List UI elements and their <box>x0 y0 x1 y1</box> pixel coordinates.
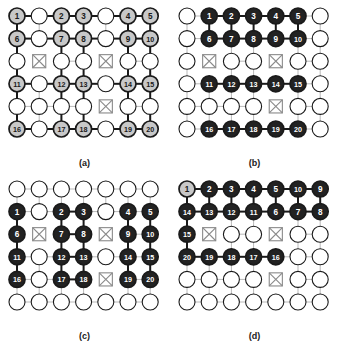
node-labeled[interactable]: 9 <box>312 181 328 197</box>
node-labeled[interactable]: 16 <box>201 121 217 137</box>
node-labeled[interactable]: 8 <box>76 31 92 47</box>
node-labeled[interactable]: 17 <box>223 121 239 137</box>
node-labeled[interactable]: 15 <box>290 76 306 92</box>
node-labeled[interactable]: 13 <box>76 249 92 265</box>
node-empty <box>31 181 47 197</box>
node-labeled[interactable]: 8 <box>312 204 328 220</box>
node-labeled[interactable]: 4 <box>268 8 284 24</box>
node-labeled[interactable]: 13 <box>201 204 217 220</box>
node-label: 16 <box>205 125 213 134</box>
node-labeled[interactable]: 3 <box>246 8 262 24</box>
node-labeled[interactable]: 17 <box>53 271 69 287</box>
node-labeled[interactable]: 4 <box>246 181 262 197</box>
node-labeled[interactable]: 5 <box>142 204 158 220</box>
node-labeled[interactable]: 19 <box>268 121 284 137</box>
node-labeled[interactable]: 10 <box>290 181 306 197</box>
node-labeled[interactable]: 16 <box>9 271 25 287</box>
node-labeled[interactable]: 12 <box>53 76 69 92</box>
node-labeled[interactable]: 15 <box>142 76 158 92</box>
node-labeled[interactable]: 20 <box>142 271 158 287</box>
node-labeled[interactable]: 2 <box>53 8 69 24</box>
node-labeled[interactable]: 11 <box>9 249 25 265</box>
node-label: 15 <box>294 80 302 89</box>
node-labeled[interactable]: 13 <box>76 76 92 92</box>
node-labeled[interactable]: 15 <box>179 226 195 242</box>
node-label: 10 <box>146 35 154 44</box>
node-empty <box>179 76 195 92</box>
node-labeled[interactable]: 1 <box>9 8 25 24</box>
node-labeled[interactable]: 1 <box>9 204 25 220</box>
node-labeled[interactable]: 9 <box>120 31 136 47</box>
node-labeled[interactable]: 7 <box>53 226 69 242</box>
node-labeled[interactable]: 5 <box>268 181 284 197</box>
node-labeled[interactable]: 2 <box>201 181 217 197</box>
node-labeled[interactable]: 11 <box>201 76 217 92</box>
node-labeled[interactable]: 13 <box>246 76 262 92</box>
node-label: 17 <box>227 125 235 134</box>
node-labeled[interactable]: 8 <box>246 31 262 47</box>
node-labeled[interactable]: 7 <box>53 31 69 47</box>
node-labeled[interactable]: 2 <box>223 8 239 24</box>
node-labeled[interactable]: 3 <box>223 181 239 197</box>
node-empty <box>312 31 328 47</box>
node-labeled[interactable]: 11 <box>9 76 25 92</box>
node-labeled[interactable]: 19 <box>120 271 136 287</box>
node-labeled[interactable]: 16 <box>268 249 284 265</box>
node-labeled[interactable]: 14 <box>268 76 284 92</box>
node-empty <box>290 98 306 114</box>
node-labeled[interactable]: 14 <box>120 249 136 265</box>
node-labeled[interactable]: 14 <box>120 76 136 92</box>
node-labeled[interactable]: 7 <box>223 31 239 47</box>
node-labeled[interactable]: 16 <box>9 121 25 137</box>
node-labeled[interactable]: 12 <box>223 76 239 92</box>
node-labeled[interactable]: 17 <box>246 249 262 265</box>
panel-d: 1234510914131211678152019181716(d) <box>170 173 339 346</box>
node-empty <box>179 271 195 287</box>
node-empty <box>246 53 262 69</box>
node-label: 18 <box>80 275 88 284</box>
node-label: 4 <box>126 208 131 217</box>
node-label: 19 <box>272 125 280 134</box>
node-labeled[interactable]: 6 <box>201 31 217 47</box>
node-labeled[interactable]: 11 <box>246 204 262 220</box>
node-labeled[interactable]: 20 <box>179 249 195 265</box>
node-labeled[interactable]: 17 <box>53 121 69 137</box>
node-labeled[interactable]: 5 <box>290 8 306 24</box>
node-labeled[interactable]: 6 <box>268 204 284 220</box>
node-labeled[interactable]: 12 <box>223 204 239 220</box>
node-labeled[interactable]: 10 <box>142 31 158 47</box>
node-labeled[interactable]: 15 <box>142 249 158 265</box>
node-labeled[interactable]: 18 <box>223 249 239 265</box>
node-labeled[interactable]: 4 <box>120 204 136 220</box>
node-labeled[interactable]: 1 <box>179 181 195 197</box>
node-labeled[interactable]: 20 <box>142 121 158 137</box>
node-labeled[interactable]: 8 <box>76 226 92 242</box>
node-labeled[interactable]: 18 <box>76 271 92 287</box>
node-label: 1 <box>185 185 190 194</box>
node-label: 11 <box>13 80 21 89</box>
node-labeled[interactable]: 7 <box>290 204 306 220</box>
node-labeled[interactable]: 4 <box>120 8 136 24</box>
node-labeled[interactable]: 2 <box>53 204 69 220</box>
node-labeled[interactable]: 18 <box>76 121 92 137</box>
node-labeled[interactable]: 1 <box>201 8 217 24</box>
node-labeled[interactable]: 18 <box>246 121 262 137</box>
node-labeled[interactable]: 9 <box>268 31 284 47</box>
node-label: 12 <box>57 80 65 89</box>
node-labeled[interactable]: 12 <box>53 249 69 265</box>
node-labeled[interactable]: 19 <box>120 121 136 137</box>
node-labeled[interactable]: 19 <box>201 249 217 265</box>
node-labeled[interactable]: 5 <box>142 8 158 24</box>
node-empty <box>179 8 195 24</box>
node-labeled[interactable]: 6 <box>9 31 25 47</box>
node-labeled[interactable]: 20 <box>290 121 306 137</box>
node-empty <box>120 53 136 69</box>
node-labeled[interactable]: 6 <box>9 226 25 242</box>
node-labeled[interactable]: 14 <box>179 204 195 220</box>
node-labeled[interactable]: 9 <box>120 226 136 242</box>
node-labeled[interactable]: 3 <box>76 204 92 220</box>
node-labeled[interactable]: 10 <box>290 31 306 47</box>
node-empty <box>201 271 217 287</box>
node-labeled[interactable]: 3 <box>76 8 92 24</box>
node-labeled[interactable]: 10 <box>142 226 158 242</box>
